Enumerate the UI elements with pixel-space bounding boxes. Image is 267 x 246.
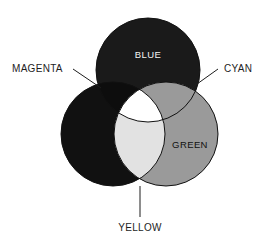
label-yellow: YELLOW: [118, 222, 162, 233]
label-magenta: MAGENTA: [12, 63, 63, 74]
label-cyan: CYAN: [224, 63, 252, 74]
label-blue: BLUE: [135, 49, 161, 60]
label-green: GREEN: [172, 139, 208, 150]
venn-diagram-figure: BLUE GREEN MAGENTA CYAN YELLOW: [0, 0, 267, 246]
venn-diagram-canvas: BLUE GREEN MAGENTA CYAN YELLOW: [0, 0, 267, 246]
